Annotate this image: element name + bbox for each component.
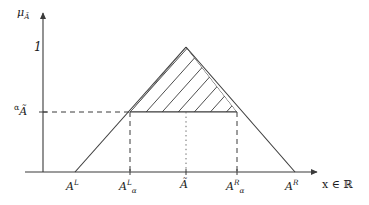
x-tick-label-AaR-sub: α [239, 186, 244, 195]
x-axis-label: x ∈ ℝ [322, 179, 352, 190]
x-tick-label-AaL-base: A [119, 180, 127, 193]
y-axis-label: μÃ [17, 7, 29, 20]
x-tick-label-Abar: Ã [180, 179, 188, 190]
x-tick-label-AaL-sub: α [132, 186, 137, 195]
x-tick-label-AL-base: A [66, 180, 74, 193]
alpha-cut-diagram-svg [0, 0, 369, 205]
membership-right-slope [186, 47, 295, 172]
x-tick-label-AaL: ALα [119, 179, 137, 194]
x-tick-label-Abar-base: Ã [180, 178, 188, 191]
figure-canvas: μÃ 1 αÃ AL ALα Ã ARα AR x ∈ ℝ [0, 0, 369, 205]
x-tick-label-AaR-base: A [226, 180, 234, 193]
x-tick-label-AaR: ARα [226, 179, 244, 194]
alpha-cut-hatched-region [114, 16, 288, 205]
alpha-cut-set-label: Ã [19, 105, 27, 118]
x-tick-label-AR-sup: R [293, 178, 298, 187]
y-tick-label-one: 1 [34, 41, 42, 53]
membership-left-slope [75, 47, 186, 172]
x-tick-label-AR-base: A [285, 180, 293, 193]
y-axis-label-subscript: Ã [24, 12, 29, 21]
x-tick-label-AL: AL [66, 179, 79, 192]
x-tick-label-AL-sup: L [74, 178, 79, 187]
x-tick-label-AR: AR [285, 179, 298, 192]
y-tick-label-alpha-cut: αÃ [14, 104, 27, 117]
